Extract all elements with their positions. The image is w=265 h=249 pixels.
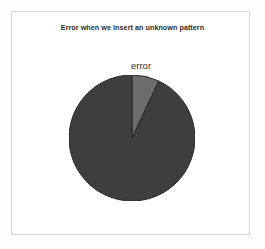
pie-slice-label-error: error: [131, 60, 151, 71]
pie-chart: [69, 75, 195, 201]
figure-canvas: Error when we insert an unknown pattern …: [0, 0, 265, 249]
chart-title: Error when we insert an unknown pattern: [0, 23, 265, 32]
pie-slice-no-error[interactable]: [69, 75, 195, 201]
pie-chart-svg: [69, 75, 195, 201]
